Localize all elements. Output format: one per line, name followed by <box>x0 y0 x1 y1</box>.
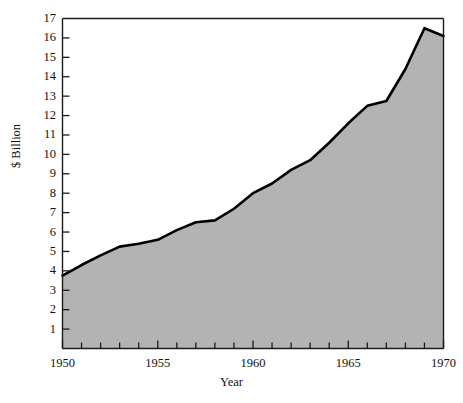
y-axis-title: $ Billion <box>10 124 23 168</box>
x-axis-tick-label: 1965 <box>318 357 378 370</box>
y-axis-tick-label: 2 <box>14 303 56 316</box>
x-axis-tick-label: 1955 <box>128 357 188 370</box>
plot-area <box>0 0 463 403</box>
y-axis-tick-label: 5 <box>14 245 56 258</box>
y-axis-tick-label: 8 <box>14 187 56 200</box>
y-axis-tick-label: 16 <box>14 31 56 44</box>
y-axis-tick-label: 17 <box>14 12 56 25</box>
y-axis-tick-label: 1 <box>14 323 56 336</box>
x-axis-tick-label: 1960 <box>223 357 283 370</box>
y-axis-tick-label: 15 <box>14 51 56 64</box>
x-axis-title: Year <box>0 376 463 389</box>
y-axis-tick-label: 14 <box>14 70 56 83</box>
y-axis-tick-label: 7 <box>14 206 56 219</box>
y-axis-tick-label: 3 <box>14 284 56 297</box>
y-axis-tick-label: 13 <box>14 90 56 103</box>
y-axis-tick-label: 9 <box>14 167 56 180</box>
y-axis-tick-label: 6 <box>14 226 56 239</box>
area-fill <box>63 28 444 348</box>
x-axis-tick-label: 1970 <box>414 357 463 370</box>
y-axis-tick-label: 12 <box>14 109 56 122</box>
y-axis-tick-label: 4 <box>14 264 56 277</box>
area-chart: 1234567891011121314151617 19501955196019… <box>0 0 463 403</box>
x-axis-tick-label: 1950 <box>33 357 93 370</box>
